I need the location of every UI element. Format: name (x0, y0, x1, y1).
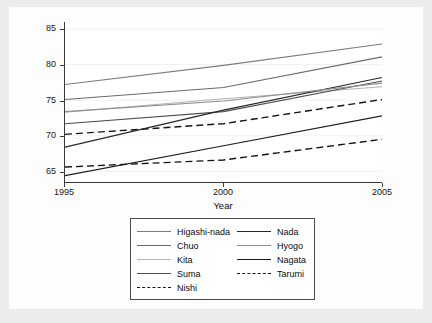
legend-item: Chuo (137, 239, 233, 253)
figure-container: Tertiary industries working population (… (0, 0, 432, 323)
legend-label: Nada (277, 226, 299, 238)
y-tick-mark (60, 65, 64, 66)
series-line-nagata (65, 116, 382, 176)
y-tick-label: 85 (36, 23, 56, 33)
y-tick-label: 70 (36, 130, 56, 140)
legend-item: Nagata (237, 253, 309, 267)
legend-label: Nishi (177, 282, 197, 294)
legend-column-left: Higashi-nadaChuoKitaSumaNishi (137, 225, 233, 295)
chart-lines-svg (65, 22, 382, 182)
y-tick-label: 65 (36, 166, 56, 176)
legend-label: Kita (177, 254, 193, 266)
x-axis-title: Year (64, 200, 382, 211)
y-tick-mark (60, 101, 64, 102)
y-tick-mark (60, 136, 64, 137)
series-line-tarumi (65, 139, 382, 167)
legend-item: Kita (137, 253, 233, 267)
legend-item: Suma (137, 267, 233, 281)
plot-area (64, 22, 382, 183)
legend-label: Tarumi (277, 268, 304, 280)
y-tick-mark (60, 172, 64, 173)
legend-item: Nada (237, 225, 309, 239)
y-tick-mark (60, 29, 64, 30)
y-tick-label: 80 (36, 59, 56, 69)
legend-label: Suma (177, 268, 201, 280)
legend-item: Nishi (137, 281, 233, 295)
chart-legend: Higashi-nadaChuoKitaSumaNishi NadaHyogoN… (130, 218, 315, 300)
legend-item: Hyogo (237, 239, 309, 253)
legend-column-right: NadaHyogoNagataTarumi (237, 225, 309, 295)
legend-label: Hyogo (277, 240, 303, 252)
legend-label: Chuo (177, 240, 199, 252)
legend-label: Higashi-nada (177, 226, 230, 238)
x-tick-label: 1995 (54, 187, 74, 197)
y-tick-label: 75 (36, 95, 56, 105)
legend-grid: Higashi-nadaChuoKitaSumaNishi NadaHyogoN… (131, 223, 314, 297)
legend-item: Tarumi (237, 267, 309, 281)
legend-label: Nagata (277, 254, 306, 266)
x-tick-label: 2000 (213, 187, 233, 197)
series-line-chuo (65, 57, 382, 100)
x-tick-label: 2005 (372, 187, 392, 197)
series-line-nishi (65, 100, 382, 135)
legend-item: Higashi-nada (137, 225, 233, 239)
